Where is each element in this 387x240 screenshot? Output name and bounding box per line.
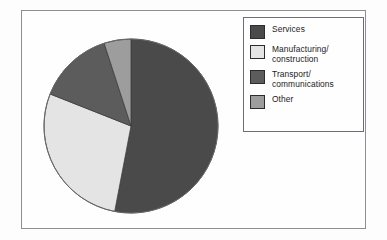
legend-label-services: Services [272, 24, 305, 35]
legend-swatch-other [250, 95, 265, 109]
pie-chart [43, 38, 219, 214]
legend-item-other[interactable]: Other [250, 94, 358, 109]
legend-swatch-services [250, 25, 265, 39]
legend-item-services[interactable]: Services [250, 24, 358, 39]
legend-label-manufacturing-construction: Manufacturing/ construction [272, 44, 329, 64]
pie-slices [44, 39, 218, 213]
legend-item-transport-communications[interactable]: Transport/ communications [250, 69, 358, 89]
legend-item-manufacturing-construction[interactable]: Manufacturing/ construction [250, 44, 358, 64]
legend: Services Manufacturing/ construction Tra… [243, 17, 364, 132]
pie-svg [43, 38, 219, 214]
legend-label-other: Other [272, 94, 293, 105]
legend-label-transport-communications: Transport/ communications [272, 69, 334, 89]
legend-swatch-transport-communications [250, 70, 265, 84]
chart-figure: Services Manufacturing/ construction Tra… [0, 0, 387, 240]
legend-swatch-manufacturing-construction [250, 45, 265, 59]
